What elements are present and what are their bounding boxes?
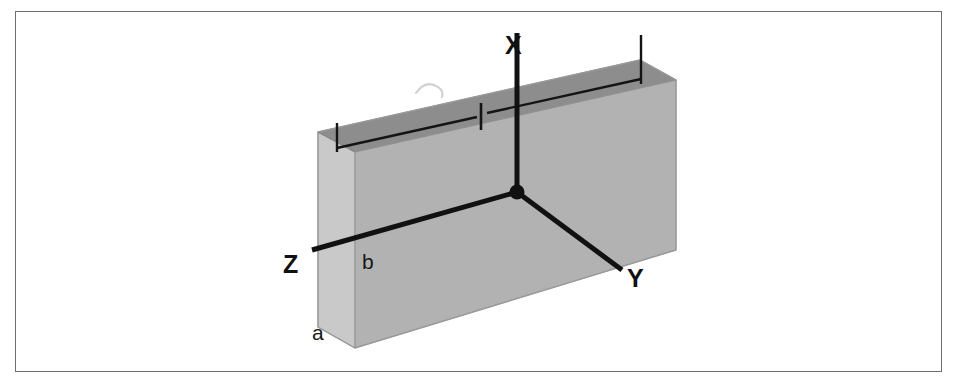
axis-label-x: X — [505, 33, 522, 58]
edge-label-a: a — [312, 322, 324, 343]
block-diagram-canvas — [0, 0, 955, 389]
axis-label-z: Z — [283, 252, 298, 277]
edge-label-b: b — [362, 251, 374, 272]
figure-root: X Y Z a b — [0, 0, 955, 389]
axis-origin-dot — [510, 185, 525, 200]
pencil-artifact-mark — [416, 84, 443, 97]
axis-label-y: Y — [627, 266, 644, 291]
rectangular-block — [318, 60, 676, 348]
